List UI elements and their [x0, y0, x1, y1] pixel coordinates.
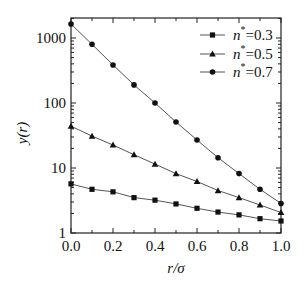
triangle-marker-icon	[173, 170, 180, 176]
legend-label: n*=0.3	[233, 24, 273, 43]
series-triangle	[68, 123, 285, 215]
legend-item-square: n*=0.3	[200, 24, 273, 43]
triangle-marker-icon	[89, 133, 96, 139]
x-tick-label: 0.6	[188, 238, 207, 254]
circle-marker-icon	[68, 21, 74, 27]
x-axis-label: r/σ	[167, 260, 185, 276]
triangle-marker-icon	[215, 187, 222, 193]
circle-marker-icon	[131, 82, 137, 88]
y-tick-label: 10	[51, 160, 66, 176]
square-marker-icon	[194, 206, 199, 211]
circle-marker-icon	[152, 100, 158, 106]
circle-marker-icon	[89, 41, 95, 47]
chart: 0.00.20.40.60.81.01101001000 n*=0.3n*=0.…	[0, 0, 304, 284]
y-axis-label: y(r)	[14, 122, 31, 147]
triangle-marker-icon	[110, 142, 117, 148]
square-marker-icon	[215, 209, 220, 214]
circle-marker-icon	[210, 69, 216, 75]
y-tick-label: 1	[59, 225, 67, 241]
circle-marker-icon	[215, 155, 221, 161]
circle-marker-icon	[278, 201, 284, 207]
y-tick-label: 100	[44, 95, 67, 111]
square-marker-icon	[236, 212, 241, 217]
x-tick-label: 0.2	[104, 238, 123, 254]
legend-label: n*=0.5	[233, 43, 273, 62]
square-marker-icon	[131, 195, 136, 200]
circle-marker-icon	[110, 62, 116, 68]
x-tick-label: 1.0	[272, 238, 291, 254]
triangle-marker-icon	[131, 151, 138, 157]
square-marker-icon	[210, 32, 215, 37]
triangle-marker-icon	[68, 123, 75, 129]
y-tick-label: 1000	[36, 30, 66, 46]
legend: n*=0.3n*=0.5n*=0.7	[200, 24, 273, 80]
legend-label: n*=0.7	[233, 61, 273, 80]
x-tick-label: 0.4	[146, 238, 165, 254]
series-line	[71, 126, 281, 212]
x-tick-label: 0.8	[230, 238, 249, 254]
square-marker-icon	[152, 198, 157, 203]
legend-item-circle: n*=0.7	[200, 61, 273, 80]
circle-marker-icon	[236, 171, 242, 177]
circle-marker-icon	[257, 187, 263, 193]
square-marker-icon	[173, 201, 178, 206]
square-marker-icon	[68, 181, 73, 186]
chart-svg: 0.00.20.40.60.81.01101001000 n*=0.3n*=0.…	[0, 0, 304, 284]
square-marker-icon	[89, 187, 94, 192]
square-marker-icon	[278, 218, 283, 223]
square-marker-icon	[257, 216, 262, 221]
legend-item-triangle: n*=0.5	[200, 43, 273, 62]
square-marker-icon	[110, 189, 115, 194]
triangle-marker-icon	[152, 161, 159, 167]
circle-marker-icon	[173, 119, 179, 125]
circle-marker-icon	[194, 137, 200, 143]
